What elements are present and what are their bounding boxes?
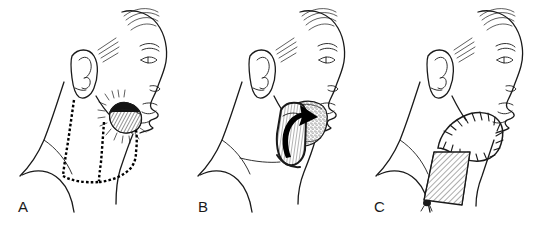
suture-knot-c — [421, 200, 432, 211]
trapezius-b — [222, 140, 250, 174]
eye-c — [497, 57, 513, 63]
incision-lower-horizontal-a — [63, 176, 99, 182]
figure-canvas: A — [0, 0, 545, 236]
sideburn-strokes-b — [276, 38, 297, 62]
neck-posterior-a — [20, 82, 64, 176]
sideburn-strokes-a — [98, 38, 119, 62]
incision-to-defect-a — [136, 130, 137, 152]
panel-a: A — [18, 9, 167, 215]
incision-cheek-limb-a — [99, 122, 104, 181]
eye-a — [141, 57, 157, 63]
brow-b — [318, 43, 337, 47]
trapezius-c — [400, 140, 428, 174]
wound-edge-neck-b — [240, 158, 280, 162]
incision-submandibular-a — [99, 152, 136, 182]
head-outline-c — [478, 11, 523, 133]
panel-label-b: B — [198, 198, 208, 215]
shoulder-a — [22, 171, 74, 212]
ear-b — [249, 50, 276, 98]
brow-a — [140, 43, 159, 47]
ear-c — [427, 50, 454, 98]
brow-lower-c — [498, 48, 515, 51]
donor-site-hatched-c — [424, 152, 470, 205]
brow-c — [496, 43, 515, 47]
lower-lip-a — [142, 111, 156, 114]
neck-posterior-b — [198, 82, 242, 176]
panel-b: B — [198, 9, 345, 215]
panel-label-a: A — [18, 198, 28, 215]
brow-lower-a — [142, 48, 159, 51]
eye-b — [319, 57, 335, 63]
panel-label-c: C — [374, 198, 385, 215]
incision-preauricular-a — [63, 100, 74, 176]
lower-lip-c — [498, 111, 512, 114]
neck-posterior-c — [376, 82, 420, 176]
sideburn-strokes-c — [454, 38, 475, 62]
neck-anterior-c — [476, 140, 494, 206]
brow-lower-b — [320, 48, 337, 51]
shoulder-c — [378, 171, 430, 212]
figure-root: A — [0, 0, 545, 236]
cheek-defect-a — [108, 102, 144, 138]
panel-c: C — [374, 9, 523, 215]
ear-a — [71, 50, 98, 98]
